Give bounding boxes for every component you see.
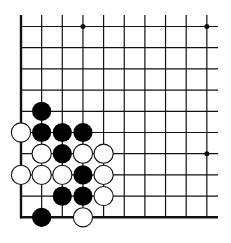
black-stone (53, 123, 72, 142)
white-stone (94, 187, 113, 206)
black-stone (53, 144, 72, 163)
star-point-icon (204, 151, 209, 156)
white-stone (73, 144, 92, 163)
white-stone (32, 144, 51, 163)
board-grid (20, 15, 218, 218)
black-stone (32, 123, 51, 142)
white-stone (73, 208, 92, 227)
go-board (0, 0, 231, 243)
black-stone (53, 187, 72, 206)
white-stone (11, 165, 30, 184)
black-stone (73, 187, 92, 206)
white-stone (94, 165, 113, 184)
black-stone (73, 165, 92, 184)
star-point-icon (80, 24, 85, 29)
white-stone (94, 144, 113, 163)
star-point-icon (204, 24, 209, 29)
black-stone (32, 208, 51, 227)
white-stone (11, 123, 30, 142)
black-stone (32, 102, 51, 121)
black-stone (73, 123, 92, 142)
white-stone (32, 165, 51, 184)
white-stone (53, 165, 72, 184)
